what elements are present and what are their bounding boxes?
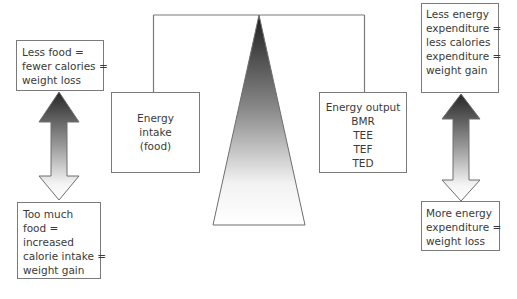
box-line: (food) bbox=[117, 139, 194, 153]
energy-output-box: Energy output BMR TEE TEF TED bbox=[319, 92, 407, 173]
box-line: less calories bbox=[426, 35, 494, 49]
more-energy-expenditure-box: More energy expenditure = weight loss bbox=[421, 201, 500, 251]
box-line: Less food = bbox=[22, 45, 98, 59]
box-line: increased bbox=[23, 235, 95, 249]
box-line: fewer calories = bbox=[22, 59, 98, 73]
box-line: weight gain bbox=[426, 63, 494, 77]
box-line: calorie intake = bbox=[23, 249, 95, 263]
box-line: TEE bbox=[325, 128, 401, 142]
box-line: expenditure = bbox=[426, 21, 494, 35]
box-line: expenditure = bbox=[426, 49, 494, 63]
box-line: weight loss bbox=[22, 73, 98, 87]
left-double-arrow-icon bbox=[39, 92, 79, 200]
box-line: Too much bbox=[23, 207, 95, 221]
right-double-arrow-icon bbox=[442, 94, 480, 201]
box-line: Energy bbox=[117, 111, 194, 125]
box-line: weight gain bbox=[23, 263, 95, 277]
box-line: intake bbox=[117, 125, 194, 139]
less-energy-expenditure-box: Less energy expenditure = less calories … bbox=[421, 3, 499, 93]
box-line: TEF bbox=[325, 142, 401, 156]
less-food-box: Less food = fewer calories = weight loss bbox=[16, 40, 104, 91]
box-line: food = bbox=[23, 221, 95, 235]
box-line: TED bbox=[325, 156, 401, 170]
box-line: Less energy bbox=[426, 7, 494, 21]
box-line: expenditure = bbox=[426, 220, 495, 234]
box-line: BMR bbox=[325, 114, 401, 128]
box-line: More energy bbox=[426, 206, 495, 220]
box-line: Energy output bbox=[325, 100, 401, 114]
energy-intake-box: Energy intake (food) bbox=[111, 92, 200, 173]
box-line: weight loss bbox=[426, 234, 495, 248]
fulcrum-triangle bbox=[213, 15, 305, 225]
too-much-food-box: Too much food = increased calorie intake… bbox=[17, 202, 101, 279]
